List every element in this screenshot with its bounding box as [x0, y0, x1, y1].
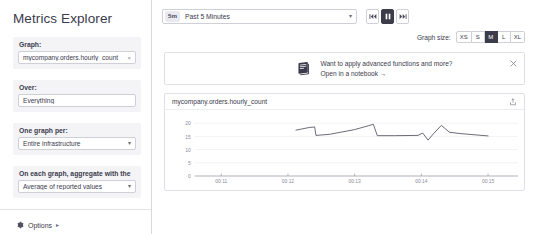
svg-text:00:12: 00:12 — [282, 179, 295, 184]
aggregate-select[interactable]: Average of reported values ▾ — [18, 180, 136, 193]
time-range-badge: 5m — [165, 11, 180, 21]
toolbar: 5m Past 5 Minutes ▾ — [152, 0, 533, 24]
over-input-value: Everything — [23, 97, 131, 104]
svg-text:00:14: 00:14 — [415, 179, 428, 184]
close-icon[interactable] — [510, 60, 517, 67]
time-range-select[interactable]: 5m Past 5 Minutes ▾ — [162, 9, 357, 24]
notebook-banner: Want to apply advanced functions and mor… — [164, 52, 525, 85]
one-graph-per-value: Entire infrastructure — [23, 140, 125, 147]
one-graph-per-select[interactable]: Entire infrastructure ▾ — [18, 137, 136, 150]
chart-plot-area[interactable]: 0510152000:1100:1200:1300:1400:15 — [165, 110, 524, 190]
over-input[interactable]: Everything — [18, 94, 136, 107]
chevron-down-icon: ▾ — [349, 14, 352, 20]
main-content: 5m Past 5 Minutes ▾ — [152, 0, 533, 234]
graph-size-m[interactable]: M — [485, 31, 498, 43]
over-field-label: Over: — [19, 84, 136, 91]
export-icon[interactable] — [509, 98, 517, 106]
chart-header: mycompany.orders.hourly_count — [165, 94, 524, 110]
pause-button[interactable] — [381, 9, 394, 24]
chart-card: mycompany.orders.hourly_count 0510152000… — [164, 93, 525, 191]
banner-line1: Want to apply advanced functions and mor… — [320, 59, 452, 69]
chevron-right-icon: ▸ — [56, 222, 59, 228]
graph-size-s[interactable]: S — [472, 31, 485, 43]
graph-input-value: mycompany.orders.hourly_count — [23, 54, 124, 61]
aggregate-block: On each graph, aggregate with the Averag… — [13, 166, 141, 198]
graph-size-xs[interactable]: XS — [456, 31, 472, 43]
sidebar: Metrics Explorer Graph: mycompany.orders… — [0, 0, 152, 234]
metrics-explorer-app: Metrics Explorer Graph: mycompany.orders… — [0, 0, 533, 234]
time-range-value: Past 5 Minutes — [185, 13, 346, 20]
chart-wrap: mycompany.orders.hourly_count 0510152000… — [152, 85, 533, 191]
one-graph-per-block: One graph per: Entire infrastructure ▾ — [13, 123, 141, 155]
gear-icon — [16, 221, 24, 229]
forward-button[interactable] — [396, 9, 409, 24]
graph-input[interactable]: mycompany.orders.hourly_count × — [18, 51, 136, 64]
graph-size-control: Graph size: XS S M L XL — [152, 24, 533, 43]
svg-text:00:11: 00:11 — [215, 179, 227, 184]
svg-text:20: 20 — [185, 121, 191, 126]
over-field-block: Over: Everything — [13, 80, 141, 112]
pause-icon — [384, 13, 392, 20]
aggregate-label: On each graph, aggregate with the — [19, 170, 136, 177]
notebook-banner-wrap: Want to apply advanced functions and mor… — [152, 43, 533, 85]
svg-text:00:13: 00:13 — [349, 179, 362, 184]
svg-text:5: 5 — [188, 161, 191, 166]
playback-controls — [366, 9, 409, 24]
graph-size-label: Graph size: — [417, 34, 451, 41]
aggregate-value: Average of reported values — [23, 183, 125, 190]
graph-size-group: XS S M L XL — [456, 31, 525, 43]
graph-field-block: Graph: mycompany.orders.hourly_count × — [13, 37, 141, 69]
sidebar-divider — [0, 209, 151, 210]
rewind-icon — [369, 13, 377, 20]
forward-icon — [399, 13, 407, 20]
graph-size-l[interactable]: L — [498, 31, 511, 43]
options-toggle[interactable]: Options ▸ — [13, 221, 141, 229]
chart-title: mycompany.orders.hourly_count — [172, 98, 509, 105]
banner-line2-link[interactable]: Open in a notebook → — [320, 69, 452, 79]
banner-text: Want to apply advanced functions and mor… — [320, 59, 452, 78]
chevron-down-icon: ▾ — [128, 141, 131, 147]
line-chart-svg: 0510152000:1100:1200:1300:1400:15 — [165, 110, 524, 190]
svg-text:0: 0 — [188, 174, 191, 179]
banner-content: Want to apply advanced functions and mor… — [236, 59, 452, 78]
graph-field-label: Graph: — [19, 41, 136, 48]
rewind-button[interactable] — [366, 9, 379, 24]
options-label: Options — [28, 222, 52, 229]
graph-size-xl[interactable]: XL — [511, 31, 525, 43]
svg-text:00:15: 00:15 — [482, 179, 495, 184]
chevron-down-icon: ▾ — [128, 184, 131, 190]
one-graph-per-label: One graph per: — [19, 127, 136, 134]
remove-metric-icon[interactable]: × — [127, 55, 131, 61]
page-title: Metrics Explorer — [13, 11, 141, 26]
notebook-icon — [296, 61, 311, 76]
svg-text:10: 10 — [185, 148, 191, 153]
svg-text:15: 15 — [185, 135, 191, 140]
